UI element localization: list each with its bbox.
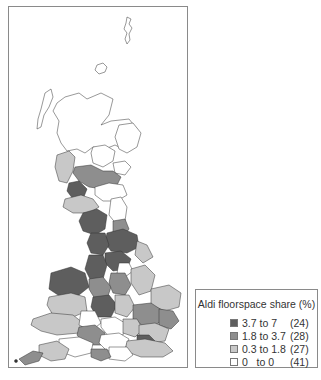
legend-range: 1.8 to 3.7: [242, 330, 290, 342]
legend-range: 0 to 0: [242, 356, 290, 368]
map-legend: Aldi floorspace share (%) 3.7 to 7 (24) …: [195, 289, 318, 368]
legend-count: (27): [290, 343, 309, 355]
swatch-white-icon: [230, 358, 238, 366]
legend-range: 3.7 to 7: [242, 317, 290, 329]
legend-count: (41): [290, 356, 309, 368]
legend-item-mid: 1.8 to 3.7 (28): [230, 330, 309, 342]
swatch-mid-icon: [230, 332, 238, 340]
legend-item-high: 3.7 to 7 (24): [230, 317, 309, 329]
legend-count: (24): [290, 317, 309, 329]
legend-count: (28): [290, 330, 309, 342]
legend-item-low: 0.3 to 1.8 (27): [230, 343, 309, 355]
legend-title: Aldi floorspace share (%): [196, 298, 317, 310]
legend-range: 0.3 to 1.8: [242, 343, 290, 355]
swatch-light-icon: [230, 345, 238, 353]
swatch-dark-icon: [230, 319, 238, 327]
great-britain-map: [9, 7, 189, 369]
choropleth-map: [8, 6, 188, 368]
legend-item-zero: 0 to 0 (41): [230, 356, 309, 368]
